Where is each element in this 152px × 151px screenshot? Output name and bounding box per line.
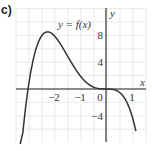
x-tick-label: −1 [74,91,86,103]
x-axis-label: x [139,76,145,88]
x-tick-label: −2 [48,91,60,103]
x-tick-label: 0 [97,91,103,103]
y-tick-label: −4 [91,110,103,122]
y-tick-label: 8 [98,29,104,41]
function-plot: −2−10184−4 y = f(x) x y [0,0,152,151]
y-axis-label: y [109,7,115,19]
function-label: y = f(x) [57,18,91,31]
x-tick-label: 1 [129,91,135,103]
y-tick-label: 4 [98,56,104,68]
